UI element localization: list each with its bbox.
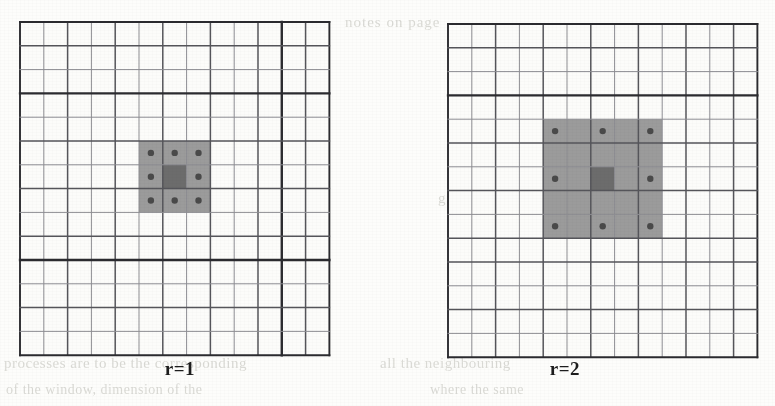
neighbor-dot (195, 150, 201, 156)
neighbor-dot (647, 175, 653, 181)
center-cell-r2 (591, 167, 615, 191)
neighbor-dot (148, 197, 154, 203)
bleed-text-5: of the window, dimension of the (6, 382, 203, 398)
center-cell-r1 (163, 165, 187, 189)
caption-r2: r=2 (505, 358, 625, 380)
neighbor-dot (599, 223, 605, 229)
bleed-text-1: notes on page (345, 14, 440, 31)
grid-svg-r1 (18, 20, 331, 357)
grid-r1 (18, 20, 331, 357)
neighbor-dot (195, 197, 201, 203)
neighbor-dot (148, 173, 154, 179)
neighbor-dot (195, 173, 201, 179)
neighbor-dot (552, 128, 558, 134)
neighbor-dot (599, 128, 605, 134)
grid-svg-r2 (446, 22, 759, 359)
figure-container: notes on page grid structure processes a… (0, 0, 775, 406)
neighbor-dot (552, 223, 558, 229)
neighbor-dot (171, 150, 177, 156)
neighbor-dot (647, 128, 653, 134)
grid-r2 (446, 22, 759, 359)
neighbor-dot (148, 150, 154, 156)
neighbor-dot (647, 223, 653, 229)
bleed-text-6: where the same (430, 382, 524, 398)
caption-r1: r=1 (120, 358, 240, 380)
neighbor-dot (552, 175, 558, 181)
neighbor-dot (171, 197, 177, 203)
